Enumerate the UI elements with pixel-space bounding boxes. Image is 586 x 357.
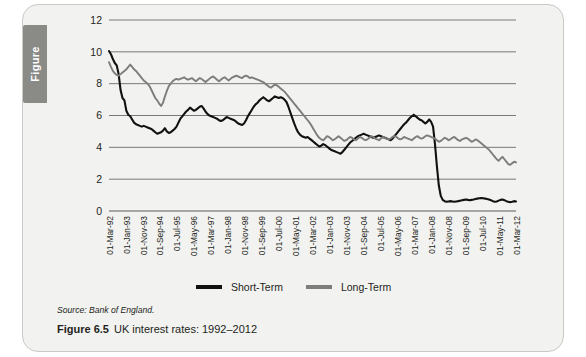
x-axis-label-7: 01-Jan-98	[223, 216, 233, 254]
x-axis-label-24: 01-Mar-12	[512, 216, 522, 255]
x-axis-label-4: 01-Jul-95	[172, 216, 182, 251]
y-axis-label-2: 2	[96, 173, 102, 185]
legend-swatch-short-term	[196, 285, 222, 289]
x-axis-label-22: 01-Jul-10	[478, 216, 488, 251]
y-axis-label-0: 0	[96, 205, 102, 217]
x-axis-label-14: 01-Nov-03	[342, 216, 352, 255]
x-axis-label-10: 01-Jul-00	[274, 216, 284, 251]
figure-title: UK interest rates: 1992–2012	[114, 323, 257, 335]
x-axis-label-5: 01-May-96	[189, 216, 199, 256]
y-axis-label-8: 8	[96, 77, 102, 89]
x-axis-label-0: 01-Mar-92	[105, 216, 115, 255]
x-axis-label-19: 01-Jan-08	[427, 216, 437, 254]
x-axis-label-21: 01-Sep-09	[461, 216, 471, 255]
x-axis-label-9: 01-Sep-99	[257, 216, 267, 255]
x-axis-label-1: 01-Jan-93	[122, 216, 132, 254]
chart-plot-area: 02468101201-Mar-9201-Jan-9301-Nov-9301-S…	[22, 4, 564, 352]
x-axis-label-16: 01-Jul-05	[376, 216, 386, 251]
x-axis-label-12: 01-Mar-02	[308, 216, 318, 255]
source-note: Source: Bank of England.	[57, 305, 154, 315]
x-axis-label-17: 01-May-06	[393, 216, 403, 256]
x-axis-label-15: 01-Sep-04	[359, 216, 369, 255]
series-line-long-term	[109, 62, 516, 165]
x-axis-label-6: 01-Mar-97	[206, 216, 216, 255]
y-axis-label-12: 12	[90, 14, 102, 26]
figure-caption: Figure 6.5UK interest rates: 1992–2012	[57, 323, 257, 335]
x-axis-label-8: 01-Nov-98	[240, 216, 250, 255]
chart-legend: Short-Term Long-Term	[196, 281, 405, 293]
legend-label-short-term: Short-Term	[231, 281, 283, 293]
line-chart: 02468101201-Mar-9201-Jan-9301-Nov-9301-S…	[22, 4, 564, 304]
x-axis-label-20: 01-Nov-08	[444, 216, 454, 255]
x-axis-label-11: 01-May-01	[291, 216, 301, 256]
x-axis-label-2: 01-Nov-93	[139, 216, 149, 255]
figure-number: Figure 6.5	[57, 323, 109, 335]
x-axis-label-18: 01-Mar-07	[410, 216, 420, 255]
y-axis-label-10: 10	[90, 46, 102, 58]
x-axis-label-3: 01-Sep-94	[155, 216, 165, 255]
y-axis-label-6: 6	[96, 109, 102, 121]
y-axis-label-4: 4	[96, 141, 102, 153]
x-axis-label-13: 01-Jan-03	[325, 216, 335, 254]
legend-swatch-long-term	[306, 285, 332, 288]
x-axis-label-23: 01-May-11	[495, 216, 505, 256]
legend-label-long-term: Long-Term	[341, 281, 391, 293]
